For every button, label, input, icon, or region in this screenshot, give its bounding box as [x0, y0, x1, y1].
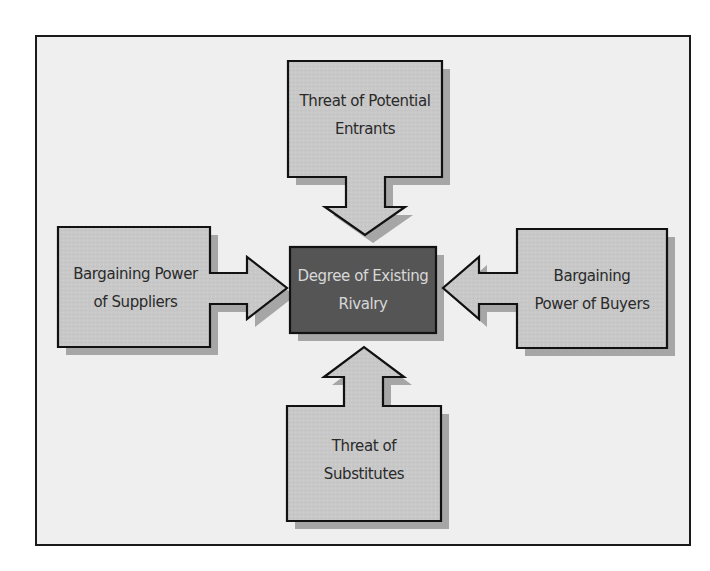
force-bottom-line1: Threat of	[332, 432, 396, 460]
force-left-label: Bargaining Power of Suppliers	[58, 258, 213, 318]
force-right-line1: Bargaining	[554, 262, 631, 290]
force-right-label: Bargaining Power of Buyers	[517, 260, 667, 320]
center-label: Degree of Existing Rivalry	[290, 260, 436, 320]
center-line1: Degree of Existing	[298, 262, 429, 290]
force-top-line1: Threat of Potential	[300, 87, 431, 115]
force-top-label: Threat of Potential Entrants	[288, 85, 442, 145]
force-bottom-label: Threat of Substitutes	[287, 430, 441, 490]
force-left-line2: of Suppliers	[93, 288, 177, 316]
force-bottom-line2: Substitutes	[324, 460, 404, 488]
force-left-line1: Bargaining Power	[73, 260, 198, 288]
force-right-line2: Power of Buyers	[534, 290, 649, 318]
center-line2: Rivalry	[338, 290, 387, 318]
force-top-line2: Entrants	[335, 115, 395, 143]
